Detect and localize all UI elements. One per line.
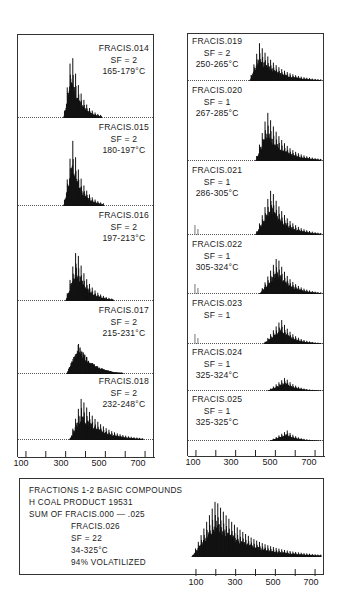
- left-x-axis: 100 300 500 700: [17, 457, 154, 477]
- tick-label: 100: [188, 577, 203, 587]
- left-spectra-column: FRACIS.014 SF = 2 165-179°C FRACIS.015 S…: [17, 34, 154, 457]
- right-spectra-plot: [188, 34, 325, 457]
- tick-label: 700: [301, 457, 316, 467]
- tick-label: 500: [91, 458, 106, 468]
- summary-spectrum-box: FRACTIONS 1-2 BASIC COMPOUNDS H COAL PRO…: [19, 478, 324, 575]
- tick-label: 100: [185, 457, 200, 467]
- tick-label: 700: [303, 577, 318, 587]
- tick-label: 500: [262, 457, 277, 467]
- summary-x-axis: 100 300 500 700: [187, 576, 324, 596]
- tick-label: 300: [223, 457, 238, 467]
- tick-label: 100: [13, 458, 28, 468]
- tick-label: 300: [227, 577, 242, 587]
- summary-spectrum-plot: [20, 479, 325, 576]
- right-spectra-column: FRACIS.019 SF = 2 250-265°C FRACIS.020 S…: [187, 33, 324, 456]
- tick-label: 500: [265, 577, 280, 587]
- left-spectra-plot: [18, 35, 155, 458]
- tick-label: 300: [53, 458, 68, 468]
- right-x-axis: 100 300 500 700: [187, 456, 324, 476]
- tick-label: 700: [130, 458, 145, 468]
